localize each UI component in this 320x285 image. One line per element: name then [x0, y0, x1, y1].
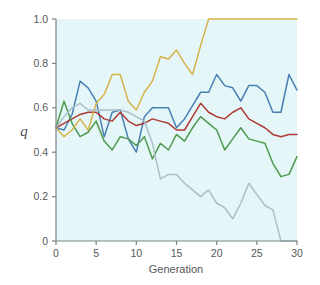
x-tick-label: 10 — [130, 247, 142, 259]
x-tick-group — [56, 241, 297, 245]
x-tick-label: 5 — [93, 247, 99, 259]
x-tick-label: 30 — [291, 247, 303, 259]
x-axis-title: Generation — [149, 263, 203, 275]
x-tick-label: 20 — [211, 247, 223, 259]
y-tick-label: 0.6 — [33, 101, 48, 113]
y-tick-label: 0.4 — [33, 146, 48, 158]
x-tick-label: 25 — [251, 247, 263, 259]
y-tick-label: 0 — [42, 235, 48, 247]
chart-figure: 00.20.40.60.81.0 051015202530 Generation… — [0, 0, 320, 285]
y-tick-label: 1.0 — [33, 13, 48, 25]
x-tick-label-group: 051015202530 — [53, 247, 303, 259]
line-chart: 00.20.40.60.81.0 051015202530 Generation… — [0, 0, 320, 285]
y-tick-label: 0.8 — [33, 57, 48, 69]
x-tick-label: 0 — [53, 247, 59, 259]
x-tick-label: 15 — [171, 247, 183, 259]
y-tick-label: 0.2 — [33, 190, 48, 202]
y-tick-label-group: 00.20.40.60.81.0 — [33, 13, 48, 247]
y-axis-title: q — [20, 123, 28, 139]
